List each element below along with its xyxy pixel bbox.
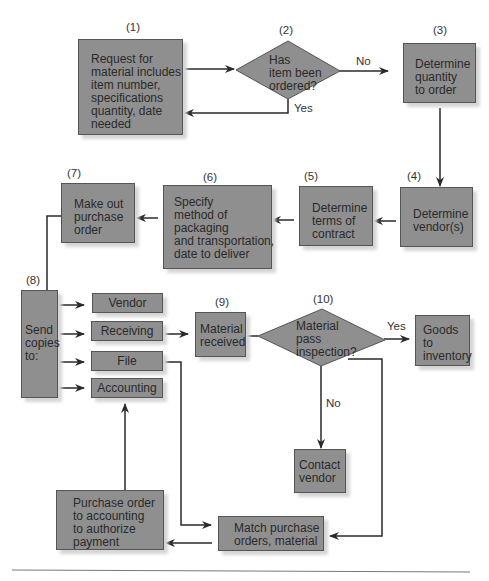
decision-10-text: Material pass inspection? (296, 320, 357, 359)
copy-receiving-box: Receiving (91, 321, 163, 341)
step-number-6: (6) (203, 171, 217, 183)
match-purchase-orders-text: Match purchase orders, material (234, 522, 319, 548)
step-4-vendor-box: Determine vendor(s) (400, 187, 473, 247)
step-number-9: (9) (215, 296, 229, 308)
contact-vendor-box: Contact vendor (294, 449, 346, 493)
step-8-text: Send copies to: (25, 324, 60, 363)
copy-accounting-box: Accounting (91, 378, 163, 398)
step-5-text: Determine terms of contract (312, 202, 367, 241)
step-8-send-copies-box: Send copies to: (21, 290, 58, 398)
decision-2-no-label: No (356, 55, 371, 67)
step-7-purchase-order-box: Make out purchase order (61, 183, 135, 243)
po-to-accounting-box: Purchase order to accounting to authoriz… (56, 490, 164, 550)
contact-vendor-text: Contact vendor (299, 459, 340, 485)
step-1-request-box: Request for material includes item numbe… (78, 39, 183, 135)
step-3-text: Determine quantity to order (415, 58, 470, 97)
copy-file-box: File (91, 351, 163, 371)
step-number-1: (1) (126, 21, 140, 33)
match-purchase-orders-box: Match purchase orders, material (218, 516, 324, 551)
step-6-specify-box: Specify method of packaging and transpor… (163, 185, 272, 269)
copy-vendor-text: Vendor (93, 294, 162, 310)
decision-2-text: Has item been ordered? (269, 54, 322, 93)
decision-2-yes-label: Yes (294, 102, 313, 114)
step-9-material-received-box: Material received (195, 312, 246, 357)
step-number-4: (4) (407, 170, 421, 182)
step-number-7: (7) (67, 167, 81, 179)
step-4-text: Determine vendor(s) (413, 208, 468, 234)
copy-receiving-text: Receiving (92, 322, 162, 338)
copy-accounting-text: Accounting (92, 379, 162, 395)
po-to-accounting-text: Purchase order to accounting to authoriz… (73, 497, 155, 549)
step-7-text: Make out purchase order (74, 198, 123, 237)
decision-10-no-label: No (326, 397, 341, 409)
goods-to-inventory-text: Goods to inventory (423, 324, 472, 363)
copy-vendor-box: Vendor (92, 293, 163, 313)
step-3-quantity-box: Determine quantity to order (403, 43, 476, 103)
step-number-2: (2) (279, 24, 293, 36)
decision-10-yes-label: Yes (387, 320, 406, 332)
goods-to-inventory-box: Goods to inventory (415, 315, 470, 366)
step-number-8: (8) (26, 274, 40, 286)
step-9-text: Material received (200, 323, 245, 349)
step-1-text: Request for material includes item numbe… (91, 53, 181, 131)
step-number-10: (10) (313, 293, 333, 305)
step-5-terms-box: Determine terms of contract (299, 186, 373, 246)
step-number-3: (3) (433, 24, 447, 36)
copy-file-text: File (92, 352, 162, 368)
step-6-text: Specify method of packaging and transpor… (174, 196, 274, 261)
step-number-5: (5) (304, 170, 318, 182)
